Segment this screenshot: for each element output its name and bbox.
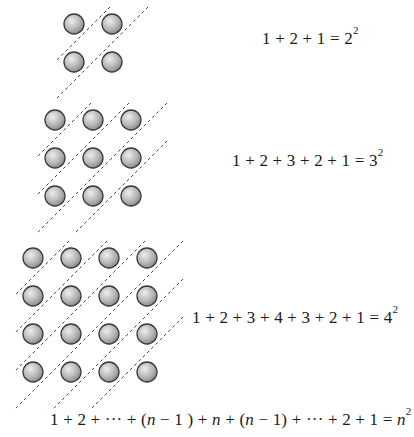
ball-dot	[61, 324, 81, 344]
equation-n2: 1 + 2 + 1 = 22	[262, 27, 359, 49]
diagonal-separator	[38, 103, 91, 156]
equation-lhs: 1 + 2 + 3 + 4 + 3 + 2 + 1 =	[192, 308, 384, 327]
ball-dot	[99, 362, 119, 382]
ball-dot	[64, 14, 84, 34]
equation-exponent: 2	[353, 24, 359, 36]
equation-lhs: 1 + 2 + 3 + 2 + 1 =	[232, 151, 369, 170]
dot-grid-3x3	[38, 103, 167, 232]
ball-dot	[23, 286, 43, 306]
ball-dot	[45, 110, 65, 130]
equation-base: 2	[344, 29, 353, 48]
equation-exponent: 2	[378, 146, 384, 158]
ball-dot	[121, 110, 141, 130]
equation-lhs: 1 + 2 + 1 =	[262, 29, 344, 48]
equation-exponent: 2	[392, 303, 398, 315]
general-equation: 1 + 2 + ··· + (n − 1 ) + n + (n − 1) + ·…	[50, 408, 411, 430]
ball-dot	[83, 110, 103, 130]
ball-dot	[83, 148, 103, 168]
ball-dot	[99, 324, 119, 344]
ball-dot	[61, 248, 81, 268]
diagonal-separator	[57, 7, 110, 60]
equation-n3: 1 + 2 + 3 + 2 + 1 = 32	[232, 149, 383, 171]
ball-dot	[102, 52, 122, 72]
ball-dot	[99, 286, 119, 306]
general-eq-variable: n	[397, 410, 406, 429]
ball-dot	[137, 324, 157, 344]
ball-dot	[61, 362, 81, 382]
general-eq-variable: n	[212, 410, 221, 429]
diagonal-separator	[16, 241, 69, 294]
general-eq-variable: n	[245, 410, 254, 429]
ball-dot	[137, 286, 157, 306]
ball-dot	[23, 362, 43, 382]
ball-dot	[102, 14, 122, 34]
ball-dot	[23, 324, 43, 344]
general-eq-text: − 1) + ··· + 2 + 1 =	[254, 410, 397, 429]
ball-dot	[64, 52, 84, 72]
equation-base: 3	[369, 151, 378, 170]
ball-dot	[121, 186, 141, 206]
general-eq-text: + (	[221, 410, 246, 429]
dot-grid-2x2	[57, 7, 148, 98]
general-eq-exponent: 2	[406, 405, 412, 417]
ball-dot	[23, 248, 43, 268]
ball-dot	[61, 286, 81, 306]
diagonal-separator	[16, 241, 183, 408]
ball-dot	[45, 186, 65, 206]
ball-dot	[99, 248, 119, 268]
ball-dot	[137, 362, 157, 382]
ball-dot	[121, 148, 141, 168]
general-eq-text: 1 + 2 + ··· + (	[50, 410, 147, 429]
dot-grid-diagram	[0, 0, 414, 437]
general-eq-variable: n	[147, 410, 156, 429]
general-eq-text: − 1 ) +	[156, 410, 212, 429]
ball-dot	[137, 248, 157, 268]
equation-n4: 1 + 2 + 3 + 4 + 3 + 2 + 1 = 42	[192, 306, 398, 328]
ball-dot	[83, 186, 103, 206]
ball-dot	[45, 148, 65, 168]
dot-grid-4x4	[16, 241, 183, 408]
